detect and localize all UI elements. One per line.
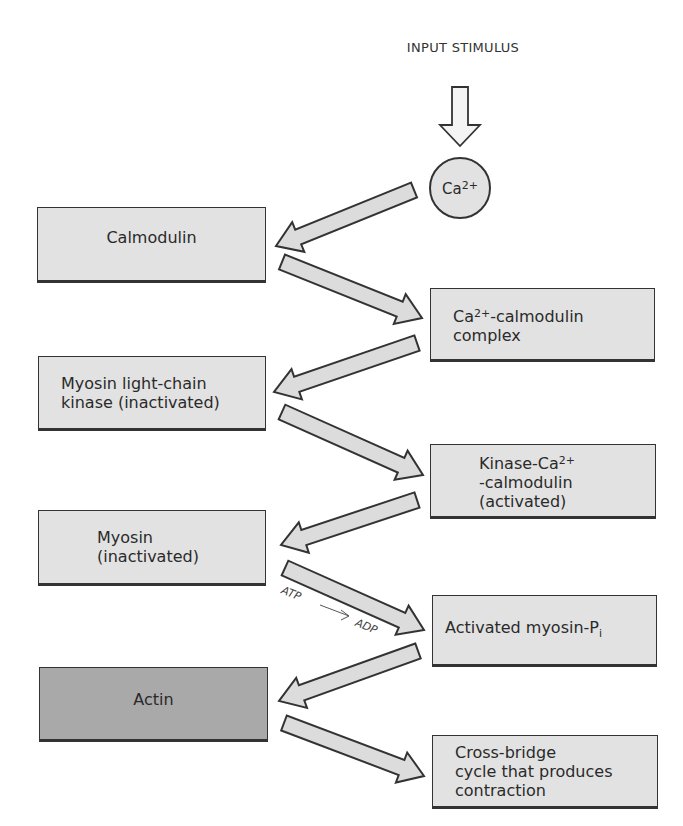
ca-calmodulin-complex-label: Ca2+-calmodulin complex xyxy=(453,304,584,345)
cross-bridge-cycle-box: Cross-bridge cycle that produces contrac… xyxy=(432,735,658,809)
arrow-myosin-to-activated-myosin xyxy=(282,561,424,635)
arrow-complex-to-mlck xyxy=(274,335,420,399)
arrow-activated-myosin-to-actin xyxy=(279,644,421,708)
mlck-label: Myosin light-chain kinase (inactivated) xyxy=(61,374,220,412)
calcium-label: Ca2+ xyxy=(442,179,478,198)
input-stimulus-label: INPUT STIMULUS xyxy=(388,40,538,55)
kinase-ca-calmodulin-label: Kinase-Ca2+ -calmodulin (activated) xyxy=(479,451,575,511)
atp-adp-arrow-icon xyxy=(320,605,349,620)
arrow-actin-to-cross-bridge xyxy=(281,716,424,783)
actin-label: Actin xyxy=(133,690,173,709)
actin-box: Actin xyxy=(39,667,268,742)
myosin-inactivated-label: Myosin (inactivated) xyxy=(97,528,199,566)
activated-myosin-label: Activated myosin-Pi xyxy=(445,618,602,643)
kinase-ca-calmodulin-box: Kinase-Ca2+ -calmodulin (activated) xyxy=(430,444,656,519)
calmodulin-label: Calmodulin xyxy=(106,228,196,247)
arrow-ca-to-calmodulin xyxy=(276,183,417,252)
arrow-mlck-to-kinase-complex xyxy=(279,405,423,480)
calcium-ion-node: Ca2+ xyxy=(429,157,491,219)
activated-myosin-box: Activated myosin-Pi xyxy=(432,595,657,667)
cross-bridge-cycle-label: Cross-bridge cycle that produces contrac… xyxy=(455,743,612,800)
diagram-canvas: INPUT STIMULUS Ca2+ Calmodulin Ca2+-calm… xyxy=(0,0,683,826)
arrow-kinase-complex-to-myosin xyxy=(281,492,420,552)
ca-calmodulin-complex-box: Ca2+-calmodulin complex xyxy=(430,288,655,362)
myosin-light-chain-kinase-box: Myosin light-chain kinase (inactivated) xyxy=(38,356,266,431)
calmodulin-box: Calmodulin xyxy=(37,207,266,283)
arrow-calmodulin-to-complex xyxy=(279,255,422,324)
input-arrow xyxy=(440,87,480,146)
myosin-inactivated-box: Myosin (inactivated) xyxy=(38,510,266,586)
